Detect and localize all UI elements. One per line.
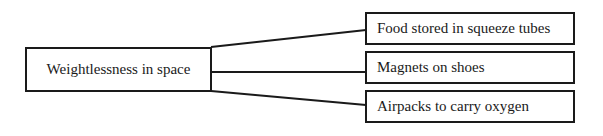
connector-1 <box>211 30 366 47</box>
child-node-label: Airpacks to carry oxygen <box>377 98 529 115</box>
root-node-label: Weightlessness in space <box>47 61 191 78</box>
child-node-food: Food stored in squeeze tubes <box>365 12 575 45</box>
connector-3 <box>211 91 366 105</box>
child-node-airpacks: Airpacks to carry oxygen <box>365 90 575 123</box>
child-node-label: Magnets on shoes <box>377 59 485 76</box>
root-node: Weightlessness in space <box>25 47 212 92</box>
child-node-label: Food stored in squeeze tubes <box>377 20 550 37</box>
child-node-magnets: Magnets on shoes <box>365 51 575 84</box>
